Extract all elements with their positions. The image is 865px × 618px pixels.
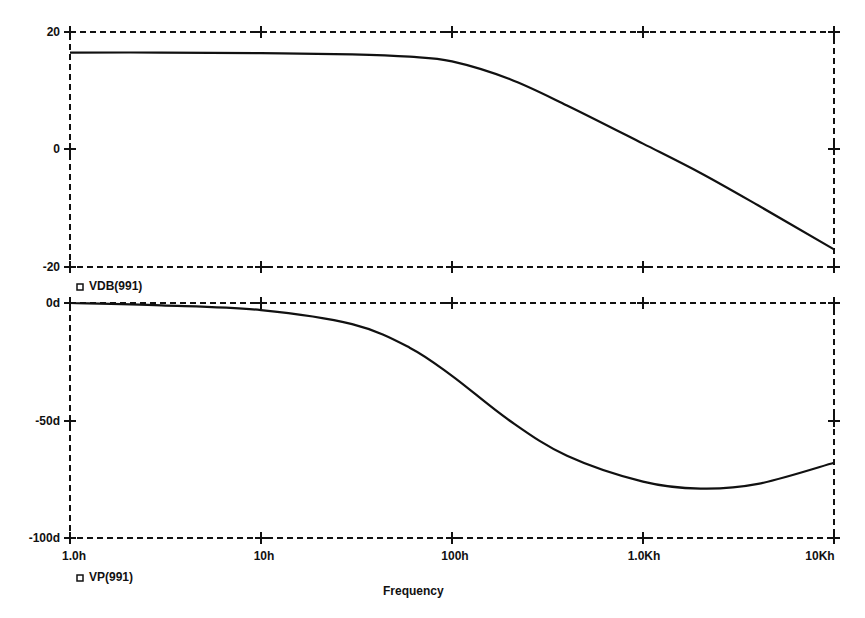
top-plot-frame <box>70 32 834 267</box>
x-axis-title: Frequency <box>383 584 444 598</box>
top-ytick-20: 20 <box>0 25 60 39</box>
tick-marks <box>64 26 840 544</box>
bottom-ytick-neg100d: -100d <box>0 531 60 545</box>
xtick-100h: 100h <box>441 549 468 563</box>
vdb-legend-marker-icon <box>77 284 83 290</box>
vp-legend-marker-icon <box>77 575 83 581</box>
vp-curve <box>70 303 834 489</box>
bottom-ytick-0d: 0d <box>0 296 60 310</box>
xtick-10kh: 10Kh <box>805 549 834 563</box>
vdb-curve <box>70 53 834 250</box>
bottom-plot-frame <box>70 303 834 538</box>
vp-legend-label: VP(991) <box>89 570 133 584</box>
top-ytick-neg20: -20 <box>0 260 60 274</box>
vdb-legend-label: VDB(991) <box>89 279 142 293</box>
xtick-1h: 1.0h <box>62 549 86 563</box>
top-ytick-0: 0 <box>0 142 60 156</box>
xtick-10h: 10h <box>254 549 275 563</box>
xtick-1kh: 1.0Kh <box>628 549 661 563</box>
plot-canvas <box>0 0 865 618</box>
bottom-ytick-neg50d: -50d <box>0 414 60 428</box>
